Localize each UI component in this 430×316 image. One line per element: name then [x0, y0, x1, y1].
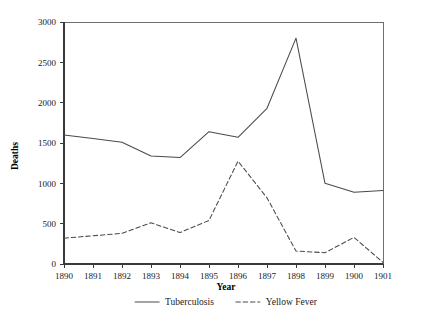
x-tick-label: 1898 — [287, 271, 306, 281]
legend-label-yellow-fever: Yellow Fever — [266, 297, 318, 307]
x-tick-label: 1893 — [142, 271, 161, 281]
x-tick-label: 1899 — [316, 271, 335, 281]
y-tick-label: 1500 — [38, 138, 57, 148]
y-tick-label: 3000 — [38, 17, 57, 27]
deaths-line-chart: 050010001500200025003000 189018911892189… — [0, 0, 430, 316]
y-tick-label: 2500 — [38, 58, 57, 68]
y-tick-label: 0 — [52, 259, 57, 269]
x-tick-label: 1900 — [345, 271, 364, 281]
x-tick-label: 1895 — [200, 271, 219, 281]
y-tick-label: 500 — [43, 219, 57, 229]
x-tick-label: 1896 — [229, 271, 248, 281]
y-tick-label: 2000 — [38, 98, 57, 108]
x-tick-label: 1897 — [258, 271, 277, 281]
y-axis-title: Deaths — [10, 142, 20, 170]
x-axis-title: Year — [217, 282, 237, 292]
x-tick-label: 1901 — [374, 271, 392, 281]
x-tick-label: 1892 — [113, 271, 131, 281]
chart-page: 050010001500200025003000 189018911892189… — [0, 0, 430, 316]
x-tick-label: 1891 — [84, 271, 102, 281]
legend-label-tuberculosis: Tuberculosis — [165, 297, 214, 307]
x-tick-label: 1890 — [55, 271, 74, 281]
y-tick-label: 1000 — [38, 179, 57, 189]
x-tick-label: 1894 — [171, 271, 190, 281]
